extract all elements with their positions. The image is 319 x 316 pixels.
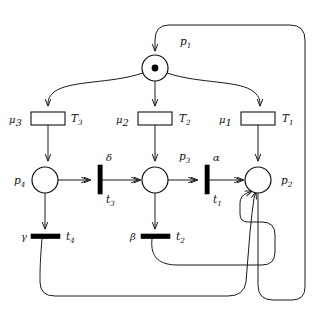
- place-p1-token: [152, 65, 159, 72]
- label-transition-T2: T2: [179, 112, 191, 127]
- arc-p2-to-p1: [155, 25, 305, 300]
- label-rate-alpha: α: [213, 152, 220, 163]
- label-place-p2: p2: [281, 174, 293, 189]
- transition-t4-bar[interactable]: [31, 234, 60, 239]
- arc-p1-to-T1: [167, 73, 260, 106]
- label-place-p3: p3: [179, 150, 191, 165]
- label-rate-mu2: μ2: [116, 114, 129, 128]
- label-transition-T3: T3: [71, 112, 83, 127]
- transition-t2-bar[interactable]: [141, 234, 170, 239]
- label-transition-t2: t2: [176, 230, 185, 245]
- transition-T3-box[interactable]: [31, 112, 65, 125]
- label-transition-t3: t3: [106, 193, 115, 208]
- place-p4[interactable]: [32, 167, 58, 193]
- place-p4-circle[interactable]: [32, 167, 58, 193]
- label-rate-gamma: γ: [21, 231, 27, 242]
- transition-t1-bar[interactable]: [205, 165, 209, 194]
- label-rate-mu1: μ1: [219, 114, 232, 128]
- place-p2-circle[interactable]: [245, 167, 271, 193]
- place-p2[interactable]: [245, 167, 271, 193]
- petri-net-canvas: p1 p2 p3 p4 T1 μ1 T2 μ2 T3 μ3: [0, 0, 319, 316]
- transition-T1-box[interactable]: [241, 112, 275, 125]
- place-p3[interactable]: [142, 167, 168, 193]
- label-rate-delta: δ: [106, 152, 112, 163]
- label-transition-T1: T1: [282, 112, 294, 127]
- transition-t3-bar[interactable]: [98, 165, 102, 194]
- label-place-p4: p4: [14, 174, 26, 189]
- label-rate-mu3: μ3: [9, 114, 22, 128]
- place-p1[interactable]: [142, 55, 168, 81]
- arc-p1-to-T3: [48, 73, 143, 106]
- label-transition-t1: t1: [213, 193, 222, 208]
- petri-net-diagram: p1 p2 p3 p4 T1 μ1 T2 μ2 T3 μ3: [0, 0, 319, 316]
- place-p3-circle[interactable]: [142, 167, 168, 193]
- transition-T2-box[interactable]: [138, 112, 172, 125]
- label-rate-beta: β: [129, 231, 136, 242]
- label-transition-t4: t4: [66, 230, 75, 245]
- label-place-p1: p1: [180, 35, 191, 50]
